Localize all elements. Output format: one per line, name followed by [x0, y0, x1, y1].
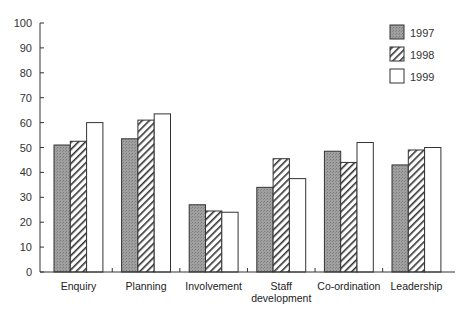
bar-group	[189, 205, 238, 272]
bars	[54, 114, 441, 272]
category-label: Involvement	[185, 280, 242, 292]
y-tick-label: 40	[20, 166, 32, 178]
bar-1999	[222, 212, 238, 272]
bar-1998	[408, 150, 424, 272]
bar-1998	[138, 120, 154, 272]
bar-1997	[54, 145, 70, 272]
y-tick-label: 30	[20, 191, 32, 203]
bar-1998	[70, 141, 86, 272]
bar-group	[257, 159, 306, 272]
category-label: Co-ordination	[317, 280, 380, 292]
y-tick-label: 80	[20, 67, 32, 79]
bar-1997	[324, 151, 340, 272]
bar-1999	[87, 123, 103, 272]
bar-1997	[392, 165, 408, 272]
bar-group	[392, 148, 441, 273]
y-tick-label: 70	[20, 92, 32, 104]
legend-swatch-1998	[390, 47, 404, 61]
bar-1999	[357, 143, 373, 272]
y-tick-label: 0	[26, 266, 32, 278]
bar-1999	[289, 179, 305, 272]
y-tick-label: 90	[20, 42, 32, 54]
bar-1998	[206, 211, 222, 272]
bar-1998	[273, 159, 289, 272]
category-label: Staff	[271, 280, 292, 292]
y-tick-label: 60	[20, 117, 32, 129]
legend-swatch-1997	[390, 25, 404, 39]
category-label: Leadership	[390, 280, 442, 292]
legend: 199719981999	[390, 25, 434, 83]
bar-group	[122, 114, 171, 272]
bar-1997	[189, 205, 205, 272]
y-tick-label: 100	[14, 17, 32, 29]
category-label: development	[251, 292, 311, 304]
category-label: Planning	[126, 280, 167, 292]
legend-label: 1999	[410, 71, 434, 83]
legend-label: 1997	[410, 27, 434, 39]
bar-1998	[341, 162, 357, 272]
x-axis: EnquiryPlanningInvolvementStaffdevelopme…	[40, 268, 455, 304]
bar-1997	[257, 187, 273, 272]
bar-group	[324, 143, 373, 272]
bar-1997	[122, 139, 138, 272]
bar-1999	[154, 114, 170, 272]
y-axis: 0102030405060708090100	[14, 17, 44, 278]
bar-group	[54, 123, 103, 272]
bar-1999	[425, 148, 441, 273]
category-label: Enquiry	[61, 280, 97, 292]
y-tick-label: 50	[20, 142, 32, 154]
y-tick-label: 20	[20, 216, 32, 228]
legend-swatch-1999	[390, 69, 404, 83]
bar-chart: 0102030405060708090100 EnquiryPlanningIn…	[0, 0, 461, 318]
y-tick-label: 10	[20, 241, 32, 253]
legend-label: 1998	[410, 49, 434, 61]
